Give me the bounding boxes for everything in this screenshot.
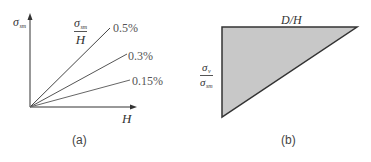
top-label: D/H [281,14,302,26]
side-denominator-subscript: sm [206,83,213,89]
pressure-triangle [222,27,357,117]
side-denominator-symbol: σ [200,76,205,88]
side-numerator-subscript: v [208,68,211,74]
panel-b-graphics [0,0,371,162]
figure: σsm σsm H 0.5% 0.3% 0.15% H (a) D/H σv σ… [0,0,371,162]
side-label: σv σsm [200,62,213,89]
side-numerator-symbol: σ [202,61,207,73]
side-denominator: σsm [200,77,213,89]
caption-b: (b) [281,134,296,146]
side-numerator: σv [202,62,211,74]
